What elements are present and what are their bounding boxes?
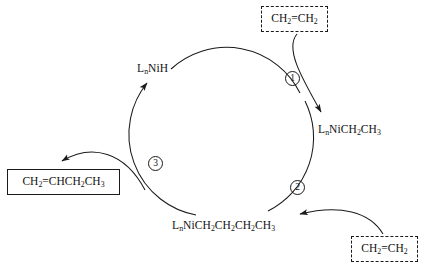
cycle-arc-ethyl-to-butyl bbox=[268, 101, 314, 211]
species-label-nickel-hydride: LnNiH bbox=[137, 62, 168, 74]
ethylene-in-step-2-arrow bbox=[300, 210, 383, 234]
step-marker-3: 3 bbox=[148, 156, 163, 171]
cycle-arc-hydride-to-ethyl bbox=[171, 47, 300, 93]
species-label-nickel-ethyl: LnNiCH2CH3 bbox=[318, 123, 381, 135]
species-nickel-butyl: LnNiCH2CH2CH2CH3 bbox=[172, 219, 275, 233]
step-marker-1-number: 1 bbox=[290, 74, 295, 84]
formula-ethylene-bottom: CH2=CH2 bbox=[361, 242, 407, 256]
reagent-box-ethylene-bottom: CH2=CH2 bbox=[351, 236, 418, 262]
step-marker-2-number: 2 bbox=[295, 183, 300, 193]
reagent-box-ethylene-top: CH2=CH2 bbox=[261, 6, 328, 32]
species-nickel-hydride: LnNiH bbox=[137, 62, 168, 76]
product-box-butene: CH2=CHCH2CH3 bbox=[7, 169, 120, 195]
species-nickel-ethyl: LnNiCH2CH3 bbox=[318, 123, 381, 137]
catalytic-cycle-diagram: LnNiH LnNiCH2CH3 LnNiCH2CH2CH2CH3 CH2=CH… bbox=[0, 0, 430, 266]
step-marker-1: 1 bbox=[285, 71, 300, 86]
step-marker-3-number: 3 bbox=[153, 159, 158, 169]
formula-butene-product: CH2=CHCH2CH3 bbox=[22, 175, 104, 189]
step-marker-2: 2 bbox=[290, 180, 305, 195]
cycle-arc-butyl-to-hydride bbox=[129, 83, 196, 215]
formula-ethylene-top: CH2=CH2 bbox=[271, 12, 317, 26]
species-label-nickel-butyl: LnNiCH2CH2CH2CH3 bbox=[172, 219, 275, 231]
